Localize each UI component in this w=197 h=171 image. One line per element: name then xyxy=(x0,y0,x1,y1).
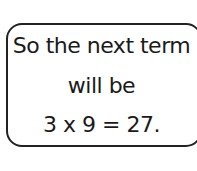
note-line-2: will be xyxy=(6,73,197,98)
note-line-3: 3 x 9 = 27. xyxy=(6,112,197,137)
note-line-1: So the next term xyxy=(6,33,197,58)
